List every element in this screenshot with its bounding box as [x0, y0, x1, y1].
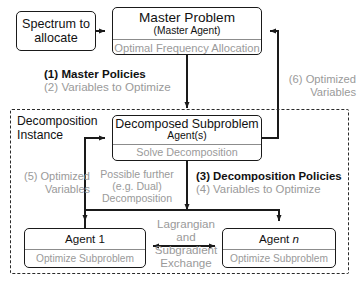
- master-policies-label-group: (1) Master Policies (2) Variables to Opt…: [44, 67, 171, 93]
- label-1-master-policies: (1) Master Policies: [44, 67, 171, 80]
- master-problem-box[interactable]: Master Problem (Master Agent) Optimal Fr…: [112, 7, 262, 55]
- agent-1-box[interactable]: Agent 1 Optimize Subproblem: [24, 228, 146, 268]
- decomposed-subproblem-title: Decomposed Subproblem: [113, 117, 261, 131]
- label-exchange-line1: Lagrangian: [157, 217, 215, 230]
- decomposed-subproblem-subtitle: Agent(s): [113, 131, 261, 142]
- label-2-variables-to-optimize: (2) Variables to Optimize: [44, 80, 171, 93]
- decomposed-subproblem-box[interactable]: Decomposed Subproblem Agent(s) Solve Dec…: [112, 115, 262, 161]
- optimized-variables-6-label-group: (6) Optimized Variables: [268, 73, 356, 99]
- label-5-variables: Variables: [14, 183, 90, 196]
- agent-n-title-suffix: n: [293, 232, 299, 245]
- decomposition-instance-label-line1: Decomposition: [17, 114, 98, 128]
- agent-n-title: Agent n: [223, 232, 335, 246]
- label-possible-line2: (e.g. Dual): [96, 180, 178, 192]
- decomposition-instance-label-line2: Instance: [17, 128, 63, 142]
- label-exchange-line2: and: [176, 230, 195, 243]
- label-4-variables-to-optimize: (4) Variables to Optimize: [196, 183, 342, 196]
- label-6-variables: Variables: [268, 86, 356, 99]
- label-3-decomposition-policies: (3) Decomposition Policies: [196, 170, 342, 183]
- label-possible-line3: Decomposition: [96, 192, 178, 204]
- label-6-optimized: (6) Optimized: [268, 73, 356, 86]
- label-exchange-line4: Exchange: [160, 256, 212, 269]
- decomposition-instance-label: Decomposition Instance: [17, 114, 113, 142]
- agent-n-footer: Optimize Subproblem: [223, 249, 335, 264]
- label-5-optimized: (5) Optimized: [14, 170, 90, 183]
- decomposed-subproblem-footer: Solve Decomposition: [113, 144, 261, 159]
- master-problem-footer: Optimal Frequency Allocation: [113, 39, 261, 54]
- agent-n-title-prefix: Agent: [259, 232, 293, 245]
- spectrum-box-title: Spectrum to allocate: [17, 17, 95, 45]
- agent-1-title: Agent 1: [25, 232, 145, 246]
- master-problem-subtitle: (Master Agent): [113, 26, 261, 37]
- decomposition-policies-label-group: (3) Decomposition Policies (4) Variables…: [196, 170, 342, 196]
- master-problem-title: Master Problem: [113, 10, 261, 26]
- lagrangian-exchange-label-group: Lagrangian and Subgradient Exchange: [148, 217, 224, 269]
- optimized-variables-5-label-group: (5) Optimized Variables: [14, 170, 90, 195]
- label-possible-line1: Possible further: [96, 168, 178, 180]
- agent-n-box[interactable]: Agent n Optimize Subproblem: [222, 228, 336, 268]
- agent-1-footer: Optimize Subproblem: [25, 249, 145, 264]
- diagram-canvas: Decomposition Instance Spectrum to alloc…: [0, 0, 359, 282]
- spectrum-box[interactable]: Spectrum to allocate: [16, 11, 96, 51]
- possible-further-decomposition-label-group: Possible further (e.g. Dual) Decompositi…: [96, 168, 178, 204]
- label-exchange-line3: Subgradient: [155, 243, 218, 256]
